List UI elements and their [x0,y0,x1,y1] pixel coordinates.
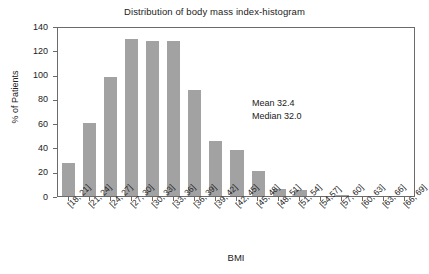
y-axis-tick-label: 20 [4,168,48,177]
histogram-figure: Distribution of body mass index-histogra… [0,0,429,274]
histogram-bar [104,77,117,196]
y-axis-tick-label: 60 [4,120,48,129]
y-axis-tick-label: 80 [4,95,48,104]
histogram-bar [188,90,201,196]
y-axis-tick-label: 40 [4,144,48,153]
plot-area [57,27,415,197]
y-axis-tick-label: 0 [4,193,48,202]
y-axis-tick-mark [53,197,57,198]
histogram-bar [125,39,138,196]
median-label: Median 32.0 [252,110,302,123]
bar-series [58,28,414,196]
statistics-annotation: Mean 32.4 Median 32.0 [252,97,302,123]
y-axis-tick-label: 140 [4,23,48,32]
x-axis-title: BMI [57,252,415,263]
y-axis-tick-label: 100 [4,71,48,80]
histogram-bar [62,163,75,196]
y-axis-tick-label: 120 [4,47,48,56]
histogram-bar [167,41,180,196]
histogram-bar [146,41,159,196]
mean-label: Mean 32.4 [252,97,302,110]
